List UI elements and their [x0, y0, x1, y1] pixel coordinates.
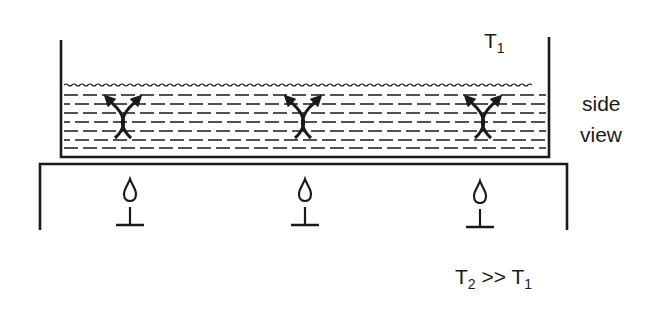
label-bottom-temperature-relation: T2 >> T1 — [455, 266, 532, 291]
diagram-canvas — [0, 0, 658, 311]
label-top-temperature: T1 — [484, 30, 505, 55]
label-side-view-line1: side — [582, 93, 621, 114]
heating-table — [40, 164, 567, 230]
water-container — [61, 37, 549, 157]
burner-left-icon — [116, 179, 144, 225]
burner-right-icon — [466, 181, 494, 227]
label-side-view-line2: view — [580, 124, 622, 145]
water-surface — [64, 84, 532, 86]
burner-center-icon — [291, 179, 319, 225]
